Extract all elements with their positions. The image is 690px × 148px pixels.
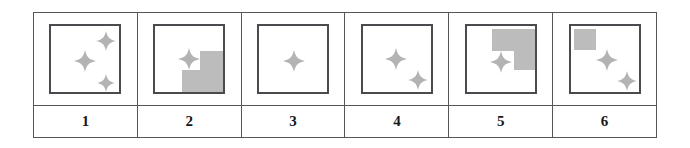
- panel-graphic-3: [259, 26, 329, 94]
- sparkle-star-icon-star-center: [596, 49, 618, 71]
- panel-graphic-5: [467, 26, 537, 94]
- sparkle-star-icon-star-center: [178, 48, 200, 70]
- panel-box-2: [153, 24, 225, 94]
- panel-box-6: [569, 24, 641, 94]
- panel-label-6: 6: [553, 106, 656, 137]
- panel-label-text: 6: [601, 113, 609, 130]
- panel-1: [34, 13, 138, 105]
- table-frame: 123456: [33, 12, 657, 138]
- panel-5: [449, 13, 553, 105]
- panel-4: [345, 13, 449, 105]
- panel-box-3: [257, 24, 329, 94]
- panel-label-text: 4: [393, 113, 401, 130]
- figure-six-panel-grid: 123456: [0, 0, 690, 148]
- panel-graphic-2: [155, 26, 225, 94]
- shaded-region-square-top-left: [574, 29, 596, 50]
- panel-label-text: 3: [289, 113, 297, 130]
- sparkle-star-icon-star-center: [74, 50, 96, 72]
- sparkle-star-icon-star-bottom-right: [617, 71, 637, 91]
- panel-2: [138, 13, 242, 105]
- panel-label-text: 1: [82, 113, 90, 130]
- panel-label-5: 5: [449, 106, 553, 137]
- panel-graphic-4: [363, 26, 433, 94]
- sparkle-star-icon-star-center: [283, 50, 305, 72]
- panel-box-5: [465, 24, 537, 94]
- panel-label-text: 5: [497, 113, 505, 130]
- sparkle-star-icon-star-center: [490, 51, 512, 73]
- panel-box-4: [361, 24, 433, 94]
- panel-6: [553, 13, 656, 105]
- labels-row: 123456: [34, 105, 656, 137]
- panel-label-2: 2: [138, 106, 242, 137]
- panels-row: [34, 13, 656, 105]
- sparkle-star-icon-star-bottom-right: [97, 74, 115, 92]
- panel-box-1: [49, 24, 121, 94]
- panel-graphic-1: [51, 26, 121, 94]
- sparkle-star-icon-star-bottom-right: [408, 70, 428, 90]
- sparkle-star-icon-star-center: [385, 48, 407, 70]
- panel-label-3: 3: [242, 106, 346, 137]
- panel-graphic-6: [571, 26, 641, 94]
- panel-label-4: 4: [345, 106, 449, 137]
- panel-label-1: 1: [34, 106, 138, 137]
- sparkle-star-icon-star-top-right: [96, 31, 116, 51]
- panel-label-text: 2: [185, 113, 193, 130]
- panel-3: [242, 13, 346, 105]
